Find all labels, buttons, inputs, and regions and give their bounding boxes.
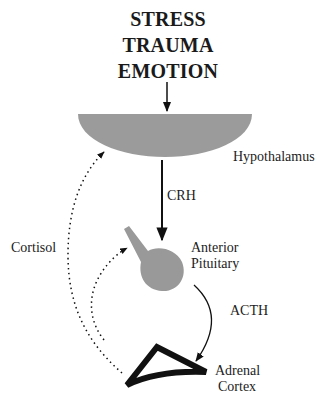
title-trauma: TRAUMA xyxy=(0,34,336,57)
acth-label: ACTH xyxy=(230,303,268,319)
hpa-axis-diagram: STRESS TRAUMA EMOTION Hypothalamus CRH A… xyxy=(0,0,336,397)
cortisol-feedback-hypothalamus xyxy=(68,152,122,373)
anterior-label: Anterior xyxy=(191,240,238,256)
cortisol-feedback-pituitary xyxy=(91,248,127,340)
cortex-label: Cortex xyxy=(218,379,256,395)
crh-label: CRH xyxy=(167,188,196,204)
title-stress: STRESS xyxy=(0,8,336,31)
title-emotion: EMOTION xyxy=(0,60,336,83)
cortisol-label: Cortisol xyxy=(11,240,56,256)
hypothalamus-shape xyxy=(78,114,252,157)
hypothalamus-label: Hypothalamus xyxy=(233,149,315,165)
adrenal-cortex-shape xyxy=(127,347,206,385)
pituitary-label: Pituitary xyxy=(191,256,239,272)
anterior-pituitary-shape xyxy=(124,226,184,291)
acth-arrow xyxy=(194,285,212,361)
adrenal-label: Adrenal xyxy=(215,363,260,379)
